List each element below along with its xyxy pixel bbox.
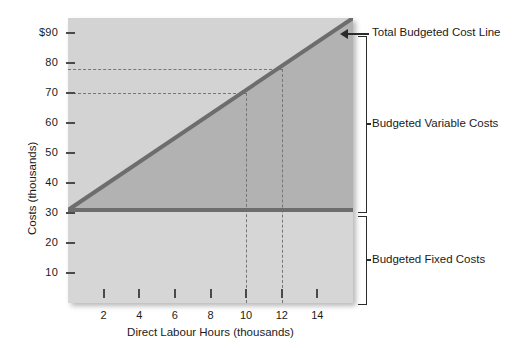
y-tick-label: 80 — [18, 56, 58, 68]
x-tick-label: 12 — [267, 309, 297, 321]
plot-area — [68, 18, 353, 303]
y-tick-mark — [66, 122, 75, 124]
x-tick-mark — [138, 289, 140, 298]
annotation-total-budgeted-cost-line: Total Budgeted Cost Line — [372, 26, 501, 38]
x-tick-label: 6 — [160, 309, 190, 321]
x-tick-label: 2 — [89, 309, 119, 321]
y-tick-label: 60 — [18, 116, 58, 128]
y-tick-label: 10 — [18, 266, 58, 278]
chart-figure: 1020304050607080$90 2468101214 Costs (th… — [0, 0, 528, 348]
bracket-tip-variable — [366, 123, 371, 125]
x-tick-label: 8 — [196, 309, 226, 321]
total-cost-line-arrow-icon — [340, 29, 348, 39]
x-tick-label: 4 — [124, 309, 154, 321]
y-tick-mark — [66, 212, 75, 214]
y-tick-mark — [66, 182, 75, 184]
y-tick-mark — [66, 272, 75, 274]
x-tick-mark — [174, 289, 176, 298]
y-tick-label: 20 — [18, 236, 58, 248]
y-tick-label: 40 — [18, 176, 58, 188]
y-tick-mark — [66, 92, 75, 94]
x-tick-mark — [281, 289, 283, 298]
bracket-tip-fixed — [366, 259, 371, 261]
y-tick-mark — [66, 32, 75, 34]
annotation-budgeted-fixed-costs: Budgeted Fixed Costs — [372, 253, 485, 265]
annotation-budgeted-variable-costs: Budgeted Variable Costs — [372, 117, 498, 129]
x-tick-mark — [210, 289, 212, 298]
x-tick-label: 14 — [302, 309, 332, 321]
total-budgeted-cost-line — [68, 18, 353, 303]
x-tick-mark — [316, 289, 318, 298]
y-tick-label: 30 — [18, 206, 58, 218]
y-tick-label: $90 — [18, 26, 58, 38]
y-axis-title: Costs (thousands) — [26, 142, 38, 235]
x-tick-mark — [245, 289, 247, 298]
y-tick-label: 50 — [18, 146, 58, 158]
x-axis-title: Direct Labour Hours (thousands) — [68, 326, 353, 338]
y-tick-mark — [66, 242, 75, 244]
x-tick-mark — [103, 289, 105, 298]
y-tick-mark — [66, 62, 75, 64]
y-tick-label: 70 — [18, 86, 58, 98]
x-tick-label: 10 — [231, 309, 261, 321]
y-tick-mark — [66, 152, 75, 154]
